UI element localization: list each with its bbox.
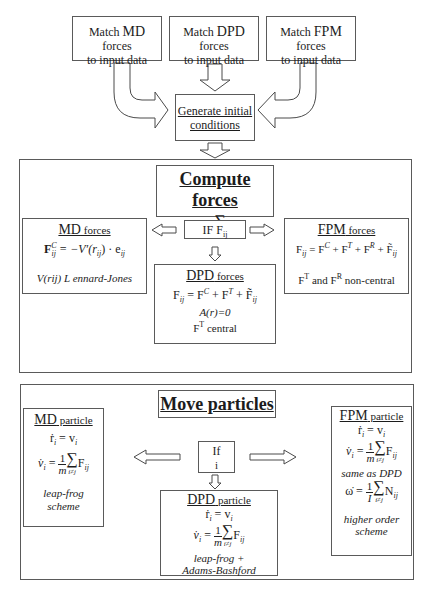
method-label: MD bbox=[123, 24, 146, 39]
fpm-forces-box: FPM forces Fij = FC + FT + FR + F̃ij FT … bbox=[284, 218, 409, 294]
generate-conditions-box: Generate initial conditions bbox=[175, 94, 255, 141]
dpd-particle-box: DPD particle ṙi = vi v̇i = 1m∑i≠jFij lea… bbox=[160, 490, 278, 576]
fpm-scheme-note: higher order scheme bbox=[332, 513, 411, 537]
dpd-velocity-equation: v̇i = 1m∑i≠jFij bbox=[161, 523, 277, 549]
move-particles-title: Move particles bbox=[159, 394, 275, 415]
dpd-force-note-a: A(r)=0 bbox=[155, 306, 275, 318]
fpm-particle-box: FPM particle ṙi = vi v̇i = 1m∑i≠jFij sam… bbox=[331, 406, 412, 556]
dpd-position-equation: ṙi = vi bbox=[161, 507, 277, 523]
md-position-equation: ṙi = vi bbox=[24, 431, 103, 447]
md-scheme-note: leap-frog scheme bbox=[24, 487, 103, 513]
fpm-force-note: FT and FR non-central bbox=[285, 272, 408, 286]
match-fpm-box: Match FPM forces to input data bbox=[266, 16, 356, 61]
fpm-same-note: same as DPD bbox=[332, 467, 411, 479]
down-arrow-generate bbox=[200, 143, 230, 158]
method-label: DPD bbox=[217, 24, 245, 39]
match-md-box: Match MD forces to input data bbox=[72, 16, 162, 61]
down-arrow-dpd bbox=[200, 64, 230, 91]
compute-forces-header: Compute forces Fi = ∑i≠jFij bbox=[156, 165, 274, 217]
move-particles-header: Move particles bbox=[158, 390, 276, 418]
md-particle-box: MD particle ṙi = vi v̇i = 1m∑i≠jFij leap… bbox=[23, 408, 104, 527]
fpm-angular-equation: ω̇ = 1I∑i≠jNij bbox=[332, 479, 411, 505]
if-particle-condition-box: If i bbox=[198, 441, 235, 473]
dpd-forces-box: DPD forces Fij = FC + FT + F̃ij A(r)=0 F… bbox=[154, 264, 276, 344]
dpd-force-note-b: FT central bbox=[155, 320, 275, 334]
fpm-force-equation: Fij = FC + FT + FR + F̃ij bbox=[285, 241, 408, 258]
match-dpd-box: Match DPD forces to input data bbox=[169, 16, 259, 61]
curved-arrow-md bbox=[114, 63, 168, 128]
if-force-condition-box: IF Fij bbox=[184, 220, 246, 239]
fpm-velocity-equation: v̇i = 1m∑i≠jFij bbox=[332, 439, 411, 465]
fpm-position-equation: ṙi = vi bbox=[332, 423, 411, 439]
dpd-scheme-note: leap-frog + Adams-Bashford bbox=[161, 552, 277, 576]
md-force-equation: FCij = −V′(rij) · eij bbox=[23, 241, 146, 258]
md-potential-note: V(rij) L ennard-Jones bbox=[23, 272, 146, 284]
compute-forces-title: Compute forces bbox=[157, 169, 273, 211]
curved-arrow-fpm bbox=[258, 63, 316, 128]
md-velocity-equation: v̇i = 1m∑i≠jFij bbox=[24, 451, 103, 477]
md-forces-box: MD forces FCij = −V′(rij) · eij V(rij) L… bbox=[22, 218, 147, 294]
dpd-force-equation: Fij = FC + FT + F̃ij bbox=[155, 287, 275, 304]
method-label: FPM bbox=[314, 24, 342, 39]
